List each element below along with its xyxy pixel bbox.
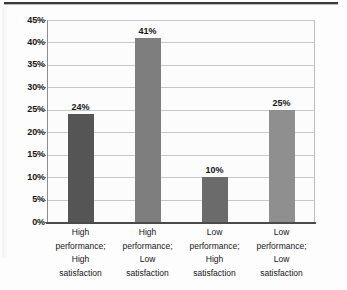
bar-value-label: 25% [262, 98, 302, 108]
y-axis-tick-mark [41, 42, 46, 43]
x-axis-category-label-line: Low [249, 226, 314, 240]
bar [202, 177, 228, 222]
x-axis-line [46, 222, 316, 224]
y-axis-tick-label: 20% [3, 128, 45, 137]
y-axis-tick-mark [41, 200, 46, 201]
x-axis-category-label-line: High [182, 253, 247, 267]
gridline [48, 42, 315, 43]
y-axis-tick-label: 45% [3, 16, 45, 25]
x-axis-category-label: Highperformance;Lowsatisfaction [114, 226, 181, 288]
y-axis-tick-mark [41, 132, 46, 133]
y-axis-tick-mark [41, 110, 46, 111]
x-axis-category-label: Highperformance;Highsatisfaction [47, 226, 114, 288]
x-axis-category-label-line: High [115, 226, 180, 240]
x-axis-category-label: Lowperformance;Highsatisfaction [181, 226, 248, 288]
x-axis-category-label-line: performance; [249, 240, 314, 254]
gridline [48, 87, 315, 88]
plot-wrap: 24%41%10%25% [47, 20, 315, 223]
x-axis-category-label-line: High [48, 226, 113, 240]
bar [135, 38, 161, 222]
x-axis-category-label-line: Low [249, 253, 314, 267]
x-axis-category-label: Lowperformance;Lowsatisfaction [248, 226, 315, 288]
gridline [48, 65, 315, 66]
x-axis-category-label-line: satisfaction [182, 267, 247, 281]
y-axis-tick-mark [41, 155, 46, 156]
x-axis-category-labels: Highperformance;HighsatisfactionHighperf… [47, 226, 315, 288]
x-axis-category-label-line: Low [182, 226, 247, 240]
y-axis-tick-mark [41, 177, 46, 178]
y-axis-tick-mark [41, 20, 46, 21]
bar-value-label: 41% [128, 26, 168, 36]
bar [68, 114, 94, 222]
x-axis-category-label-line: Low [115, 253, 180, 267]
y-axis-tick-label: 0% [3, 218, 45, 227]
y-axis-tick-label: 15% [3, 150, 45, 159]
bar [269, 110, 295, 222]
x-axis-category-label-line: performance; [182, 240, 247, 254]
y-axis: 45%40%35%30%25%20%15%10%5%0% [0, 20, 45, 223]
y-axis-tick-label: 40% [3, 38, 45, 47]
x-axis-category-label-line: satisfaction [249, 267, 314, 281]
bar-value-label: 24% [61, 102, 101, 112]
y-axis-tick-mark [41, 65, 46, 66]
y-axis-tick-label: 30% [3, 83, 45, 92]
x-axis-category-label-line: performance; [115, 240, 180, 254]
top-border-rule-soft [4, 4, 338, 5]
bar-value-label: 10% [195, 165, 235, 175]
y-axis-tick-mark [41, 87, 46, 88]
bar-chart-figure: 45%40%35%30%25%20%15%10%5%0% 24%41%10%25… [0, 0, 347, 290]
gridline [48, 20, 315, 21]
x-axis-category-label-line: High [48, 253, 113, 267]
y-axis-tick-label: 25% [3, 105, 45, 114]
y-axis-tick-label: 10% [3, 173, 45, 182]
y-axis-tick-label: 5% [3, 195, 45, 204]
x-axis-category-label-line: satisfaction [115, 267, 180, 281]
x-axis-category-label-line: satisfaction [48, 267, 113, 281]
x-axis-category-label-line: performance; [48, 240, 113, 254]
y-axis-tick-label: 35% [3, 60, 45, 69]
